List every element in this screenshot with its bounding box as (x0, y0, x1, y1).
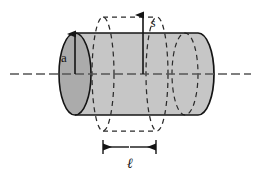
figure-container: a s ℓ (0, 0, 260, 175)
length-dimension: ℓ (103, 140, 156, 171)
cylinder-diagram: a s ℓ (0, 0, 260, 175)
radius-label: a (61, 50, 67, 65)
length-label: ℓ (127, 156, 133, 171)
height-label: s (150, 15, 155, 30)
